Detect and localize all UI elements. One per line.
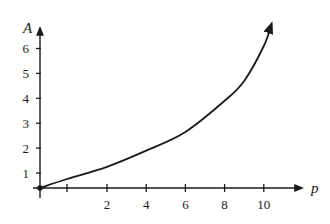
y-tick-label: 6 <box>23 41 30 56</box>
x-tick-label: 2 <box>104 197 111 212</box>
x-axis-label: p <box>310 180 319 196</box>
x-tick-label: 10 <box>257 197 270 212</box>
y-tick-label: 4 <box>23 91 30 106</box>
y-tick-label: 5 <box>23 66 30 81</box>
data-curve <box>40 24 272 188</box>
y-axis-ticks: 123456 <box>23 41 42 181</box>
x-tick-label: 4 <box>143 197 150 212</box>
y-tick-label: 2 <box>23 141 30 156</box>
chart: 246810 123456 p A <box>0 0 330 224</box>
y-tick-label: 1 <box>23 166 30 181</box>
x-tick-label: 6 <box>182 197 189 212</box>
x-tick-label: 8 <box>221 197 228 212</box>
origin-point <box>37 185 43 191</box>
y-tick-label: 3 <box>23 116 30 131</box>
y-axis-label: A <box>22 20 33 36</box>
